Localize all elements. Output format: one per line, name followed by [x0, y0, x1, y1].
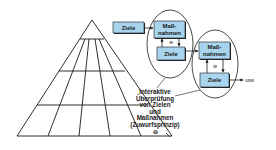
pyramid-division-line — [79, 39, 89, 136]
ziele-2-label: Ziele — [208, 77, 222, 83]
ziele-1-label: Ziele — [164, 51, 178, 57]
massnahmen-1-label-line1: Maß- — [163, 23, 177, 29]
massnahmen-2-box: Maß- nahmen — [199, 42, 231, 60]
annotation-minus-circle-icon: ⊖ — [153, 128, 158, 135]
ziele-start-box: Ziele — [113, 22, 145, 34]
goals-measures-pyramid-diagram: Ziele Maß- nahmen ⊖ Ziele Maß- nahmen ⊖ … — [0, 0, 276, 150]
annotation-connector-1 — [157, 78, 165, 88]
ziele-2-box: Ziele — [200, 73, 230, 88]
massnahmen-1-label-line2: nahmen — [158, 30, 181, 36]
annotation-connector-2 — [175, 90, 200, 96]
continuation-label: usw — [245, 77, 254, 83]
massnahmen-1-box: Maß- nahmen — [154, 21, 186, 39]
minus-circle-icon: ⊖ — [213, 63, 217, 69]
ziele-1-box: Ziele — [157, 47, 186, 61]
minus-circle-icon: ⊖ — [169, 39, 173, 45]
massnahmen-2-label-line1: Maß- — [208, 44, 222, 50]
ziele-start-label: Ziele — [122, 25, 136, 31]
pyramid-division-line — [95, 39, 110, 136]
massnahmen-2-label-line2: nahmen — [203, 51, 226, 57]
pyramid-division-line — [48, 39, 85, 136]
